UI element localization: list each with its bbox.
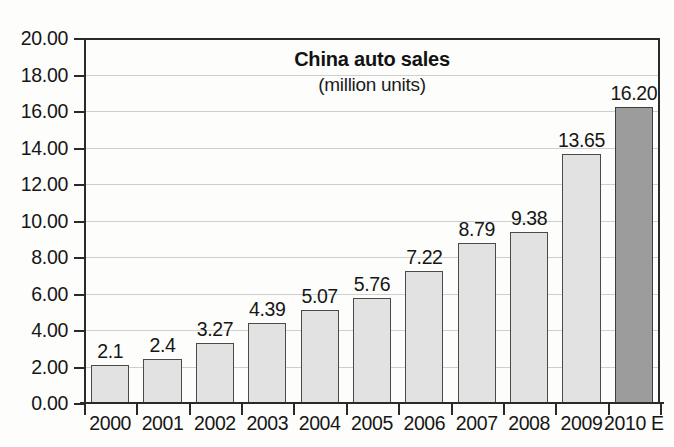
y-axis-tick-label: 0.00	[0, 392, 68, 415]
x-axis-tick	[451, 403, 453, 415]
bar-value-label: 4.39	[249, 298, 285, 321]
bar-value-label: 16.20	[610, 82, 657, 105]
bar	[301, 310, 339, 403]
y-axis-tick	[74, 294, 85, 296]
y-axis-tick-label: 18.00	[0, 63, 68, 86]
x-axis-line	[80, 402, 664, 404]
bar-value-label: 3.27	[197, 318, 233, 341]
x-axis-tick-label: 2000	[89, 412, 131, 435]
bar-value-label: 5.07	[301, 285, 337, 308]
y-axis-tick	[74, 111, 85, 113]
x-axis-tick-label: 2001	[142, 412, 184, 435]
y-axis-tick	[74, 367, 85, 369]
y-axis-tick-label: 16.00	[0, 100, 68, 123]
y-axis-tick	[74, 330, 85, 332]
bar	[196, 343, 234, 403]
bar-value-label: 7.22	[406, 246, 442, 269]
x-axis-tick-label: 2002	[194, 412, 236, 435]
y-axis-tick-label: 14.00	[0, 136, 68, 159]
y-axis-tick	[74, 75, 85, 77]
x-axis-tick	[136, 403, 138, 415]
x-axis-tick	[293, 403, 295, 415]
bar	[405, 271, 443, 403]
bar-value-label: 9.38	[511, 207, 547, 230]
y-axis-tick-label: 4.00	[0, 319, 68, 342]
y-axis-tick-label: 20.00	[0, 27, 68, 50]
x-axis-tick	[241, 403, 243, 415]
y-axis-tick	[74, 184, 85, 186]
y-axis-tick-label: 12.00	[0, 173, 68, 196]
bar	[562, 154, 600, 403]
bar	[143, 359, 181, 403]
x-axis-tick	[398, 403, 400, 415]
y-axis-tick-label: 8.00	[0, 246, 68, 269]
bar-value-label: 13.65	[558, 129, 605, 152]
y-axis-tick	[74, 148, 85, 150]
y-axis-tick	[74, 38, 85, 40]
bar	[458, 243, 496, 403]
bar-value-label: 2.4	[150, 334, 176, 357]
x-axis-tick	[84, 403, 86, 415]
x-axis-tick	[346, 403, 348, 415]
y-axis-tick-label: 2.00	[0, 355, 68, 378]
x-axis-tick-label: 2009	[561, 412, 603, 435]
x-axis-tick	[503, 403, 505, 415]
chart-container: 0.002.004.006.008.0010.0012.0014.0016.00…	[0, 0, 674, 447]
x-axis-tick	[555, 403, 557, 415]
bar	[510, 232, 548, 403]
bar	[91, 365, 129, 403]
bar-value-label: 8.79	[459, 218, 495, 241]
y-axis-tick	[74, 257, 85, 259]
y-axis-tick	[74, 221, 85, 223]
x-axis-tick-label: 2006	[403, 412, 445, 435]
x-axis-tick-label: 2004	[299, 412, 341, 435]
y-axis-tick-label: 10.00	[0, 209, 68, 232]
y-axis-tick-label: 6.00	[0, 282, 68, 305]
x-axis-tick	[189, 403, 191, 415]
bar	[248, 323, 286, 403]
x-axis-tick-label: 2005	[351, 412, 393, 435]
bar-value-label: 2.1	[97, 340, 123, 363]
x-axis-tick-label: 2003	[246, 412, 288, 435]
x-axis-tick-label: 2010 E	[604, 412, 663, 435]
bar	[615, 107, 653, 403]
bar	[353, 298, 391, 403]
x-axis-tick-label: 2008	[508, 412, 550, 435]
x-axis-tick-label: 2007	[456, 412, 498, 435]
bar-value-label: 5.76	[354, 273, 390, 296]
